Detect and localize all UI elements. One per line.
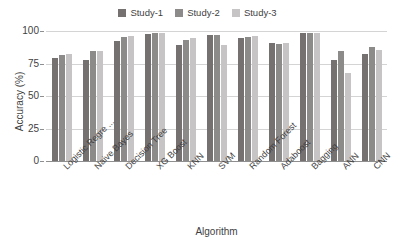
bar[interactable] — [190, 38, 196, 161]
legend-swatch-icon — [175, 9, 183, 17]
bar[interactable] — [252, 36, 258, 161]
bar[interactable] — [314, 33, 320, 161]
legend-label: Study-1 — [130, 8, 163, 18]
x-axis-label-cell: CNN — [356, 163, 387, 218]
x-axis-labels: Logistic Regre ...Naive BayesDecision Tr… — [46, 163, 387, 218]
bar-group — [356, 31, 387, 161]
x-axis-label-cell: Naive Bayes — [77, 163, 108, 218]
bar-chart: Study-1Study-2Study-3 0255075100 Accurac… — [0, 0, 395, 247]
bar[interactable] — [214, 35, 220, 161]
x-axis-label-cell: KNN — [170, 163, 201, 218]
x-axis-label-cell: XG Boost — [139, 163, 170, 218]
y-axis-tick-mark — [40, 161, 44, 162]
legend-label: Study-3 — [244, 8, 277, 18]
x-axis-label-cell: Random Forest — [232, 163, 263, 218]
x-axis-title: Algorithm — [46, 226, 387, 237]
bar[interactable] — [207, 35, 213, 161]
y-axis-tick-mark — [40, 31, 44, 32]
y-axis-tick-label: 25 — [28, 124, 39, 134]
bar-group — [46, 31, 77, 161]
y-axis-tick-label: 0 — [33, 156, 39, 166]
legend-label: Study-2 — [187, 8, 220, 18]
bar[interactable] — [345, 73, 351, 161]
bar-group — [201, 31, 232, 161]
bar[interactable] — [66, 54, 72, 161]
bar-group — [325, 31, 356, 161]
legend-swatch-icon — [118, 9, 126, 17]
x-axis-label-cell: SVM — [201, 163, 232, 218]
y-axis-tick-mark — [40, 129, 44, 130]
y-axis-tick-label: 50 — [28, 91, 39, 101]
legend-swatch-icon — [232, 9, 240, 17]
bar[interactable] — [369, 47, 375, 161]
legend-entry[interactable]: Study-1 — [118, 8, 163, 18]
bar[interactable] — [362, 54, 368, 161]
bar[interactable] — [245, 37, 251, 161]
bar[interactable] — [283, 43, 289, 161]
x-axis-label-cell: Decision Tree — [108, 163, 139, 218]
x-axis-label-cell: Logistic Regre ... — [46, 163, 77, 218]
x-axis-label-cell: Bagging — [294, 163, 325, 218]
y-axis-title: Accuracy (%) — [14, 37, 25, 167]
y-axis-tick-label: 75 — [28, 59, 39, 69]
bar[interactable] — [338, 51, 344, 162]
x-axis-label-cell: ANN — [325, 163, 356, 218]
bar[interactable] — [238, 38, 244, 161]
legend-entry[interactable]: Study-2 — [175, 8, 220, 18]
legend-entry[interactable]: Study-3 — [232, 8, 277, 18]
x-axis-label-cell: Adaboost — [263, 163, 294, 218]
bar[interactable] — [221, 45, 227, 161]
y-axis-tick-mark — [40, 96, 44, 97]
chart-legend: Study-1Study-2Study-3 — [0, 8, 395, 18]
bar[interactable] — [59, 55, 65, 161]
bar-group — [232, 31, 263, 161]
y-axis-tick-label: 100 — [22, 26, 39, 36]
bar[interactable] — [376, 50, 382, 161]
bar[interactable] — [52, 58, 58, 161]
y-axis-tick-mark — [40, 64, 44, 65]
bar[interactable] — [97, 51, 103, 161]
